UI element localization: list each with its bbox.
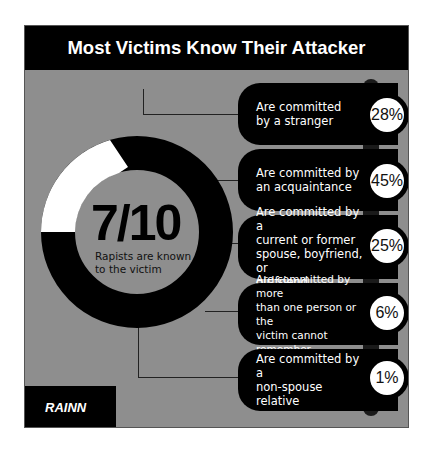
item-label: Are committed by a stranger (256, 100, 341, 128)
percent-badge-multiple: 6% (365, 291, 409, 335)
brand-logo: RAINN (25, 386, 116, 428)
connector-relative (138, 377, 239, 378)
title-bar: Most Victims Know Their Attacker (25, 26, 408, 70)
item-label: Are committed by more than one person or… (256, 272, 368, 356)
headline-subtitle: Rapists are known to the victim (95, 250, 205, 276)
connector-stranger (143, 114, 239, 115)
percent-badge-acquaintance: 45% (365, 159, 409, 203)
page-title: Most Victims Know Their Attacker (67, 37, 365, 59)
item-label: Are committed by a non-spouse relative (256, 352, 368, 408)
percent-badge-spouse: 25% (365, 224, 409, 268)
connector-relative-vertical (138, 326, 139, 378)
percent-badge-stranger: 28% (365, 93, 409, 137)
percent-badge-relative: 1% (365, 356, 409, 400)
item-label: Are committed by an acquaintance (256, 166, 359, 194)
headline-stat: 7/10 (91, 198, 180, 248)
connector-stranger-vertical (143, 89, 144, 115)
infographic-frame: Most Victims Know Their Attacker 7/10 Ra… (24, 25, 409, 428)
